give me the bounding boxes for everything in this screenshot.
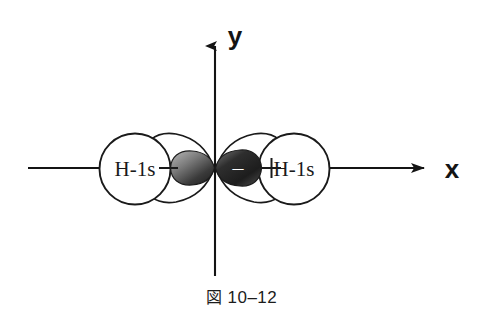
caption-number: 10–12 — [227, 288, 277, 307]
axis-group: y x — [28, 21, 460, 276]
y-axis-label: y — [228, 21, 243, 51]
orbital-diagram: y x H-1s H-1s – — [0, 0, 483, 332]
left-h1s-label: H-1s — [115, 157, 156, 181]
figure-container: y x H-1s H-1s – — [0, 0, 483, 332]
center-right-lobe-sign: – — [232, 155, 245, 180]
figure-caption: 図 10–12 — [0, 284, 483, 308]
caption-marker: 図 — [206, 288, 223, 307]
x-axis-label: x — [445, 154, 460, 184]
